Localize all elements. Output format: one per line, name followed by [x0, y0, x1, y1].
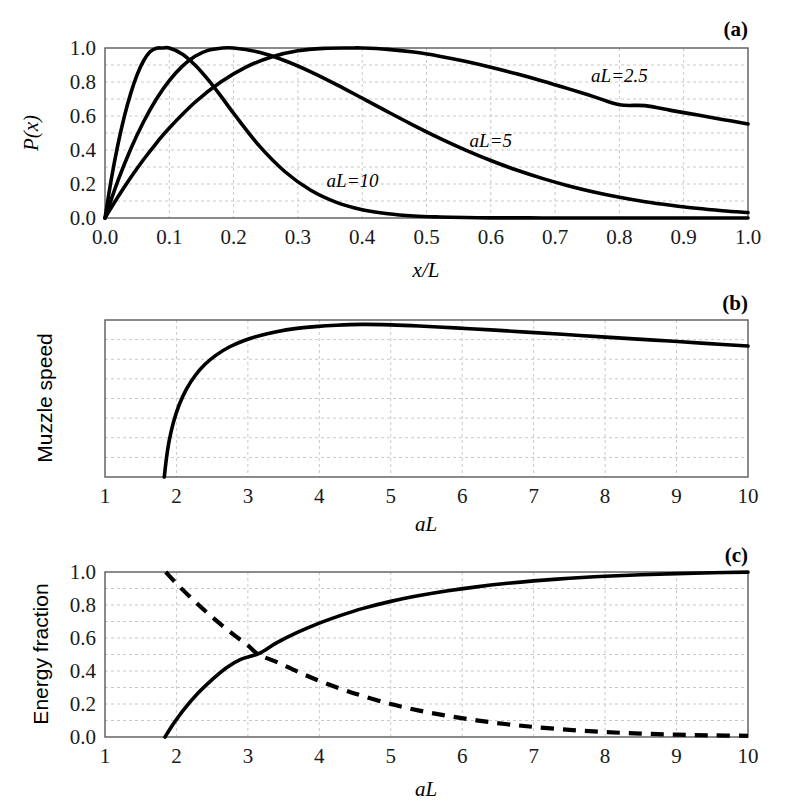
x-tick-label: 5 — [386, 484, 397, 508]
y-tick-label: 0.0 — [70, 725, 96, 749]
curve-annotation: aL=5 — [470, 130, 512, 151]
y-tick-label: 0.0 — [70, 206, 96, 230]
y-tick-label: 0.6 — [70, 626, 96, 650]
panel-c-x-tick-labels: 12345678910 — [100, 744, 759, 768]
panel-c-y-axis-title: Energy fraction — [29, 583, 52, 724]
panel-b-x-axis-title: aL — [415, 512, 437, 536]
x-tick-label: 0.9 — [671, 225, 697, 249]
panel-c: (c) 12345678910 0.00.20.40.60.81.0 aL En… — [0, 538, 788, 812]
panel-a-svg: (a) 0.00.10.20.30.40.50.60.70.80.91.0 0.… — [0, 0, 788, 288]
panel-a-label: (a) — [724, 17, 749, 41]
panel-b-svg: (b) 12345678910 aL Muzzle speed — [0, 288, 788, 538]
x-tick-label: 9 — [671, 744, 682, 768]
x-tick-label: 0.7 — [542, 225, 568, 249]
panel-b-y-axis-title: Muzzle speed — [33, 333, 56, 463]
curve-annotation: aL=2.5 — [591, 65, 648, 86]
y-tick-label: 0.4 — [70, 659, 97, 683]
x-tick-label: 0.6 — [478, 225, 504, 249]
x-tick-label: 0.4 — [349, 225, 376, 249]
panel-c-label: (c) — [725, 543, 748, 567]
panel-a-curve-labels: aL=2.5aL=5aL=10 — [327, 65, 648, 191]
y-tick-label: 0.8 — [70, 70, 96, 94]
y-tick-label: 0.6 — [70, 104, 96, 128]
panel-b-label: (b) — [722, 291, 748, 315]
x-tick-label: 2 — [171, 484, 182, 508]
x-tick-label: 6 — [457, 484, 468, 508]
panel-c-x-axis-title: aL — [415, 777, 437, 801]
x-tick-label: 10 — [738, 484, 759, 508]
figure-container: (a) 0.00.10.20.30.40.50.60.70.80.91.0 0.… — [0, 0, 788, 812]
panel-b-curves — [164, 324, 748, 477]
panel-c-y-tick-labels: 0.00.20.40.60.81.0 — [70, 560, 97, 749]
panel-a-y-axis-title: P(x) — [19, 115, 43, 152]
y-tick-label: 1.0 — [70, 36, 96, 60]
panel-a-y-tick-labels: 0.00.20.40.60.81.0 — [70, 36, 97, 230]
x-tick-label: 1 — [100, 744, 111, 768]
x-tick-label: 7 — [528, 744, 539, 768]
x-tick-label: 6 — [457, 744, 468, 768]
panel-b-x-tick-labels: 12345678910 — [100, 484, 759, 508]
panel-c-gridlines — [105, 572, 748, 737]
data-curve-useful-energy-fraction — [165, 572, 748, 737]
x-tick-label: 8 — [600, 484, 611, 508]
panel-a-x-axis-title: x/L — [412, 258, 440, 282]
y-tick-label: 0.2 — [70, 172, 96, 196]
x-tick-label: 0.3 — [285, 225, 311, 249]
panel-c-svg: (c) 12345678910 0.00.20.40.60.81.0 aL En… — [0, 538, 788, 812]
data-curve-muzzle-speed — [164, 324, 748, 477]
x-tick-label: 10 — [738, 744, 759, 768]
x-tick-label: 8 — [600, 744, 611, 768]
y-tick-label: 1.0 — [70, 560, 96, 584]
x-tick-label: 0.2 — [220, 225, 246, 249]
x-tick-label: 9 — [671, 484, 682, 508]
x-tick-label: 3 — [243, 744, 254, 768]
y-tick-label: 0.2 — [70, 692, 96, 716]
x-tick-label: 0.5 — [413, 225, 439, 249]
x-tick-label: 0.8 — [606, 225, 632, 249]
x-tick-label: 1 — [100, 484, 111, 508]
panel-a: (a) 0.00.10.20.30.40.50.60.70.80.91.0 0.… — [0, 0, 788, 288]
x-tick-label: 0.1 — [156, 225, 182, 249]
panel-b: (b) 12345678910 aL Muzzle speed — [0, 288, 788, 538]
panel-c-curves — [165, 572, 748, 737]
panel-b-gridlines — [105, 320, 748, 477]
y-tick-label: 0.4 — [70, 138, 97, 162]
panel-a-x-tick-labels: 0.00.10.20.30.40.50.60.70.80.91.0 — [92, 225, 761, 249]
x-tick-label: 7 — [528, 484, 539, 508]
x-tick-label: 3 — [243, 484, 254, 508]
x-tick-label: 4 — [314, 744, 325, 768]
x-tick-label: 5 — [386, 744, 397, 768]
x-tick-label: 1.0 — [735, 225, 761, 249]
x-tick-label: 4 — [314, 484, 325, 508]
curve-annotation: aL=10 — [327, 170, 379, 191]
y-tick-label: 0.8 — [70, 593, 96, 617]
x-tick-label: 2 — [171, 744, 182, 768]
